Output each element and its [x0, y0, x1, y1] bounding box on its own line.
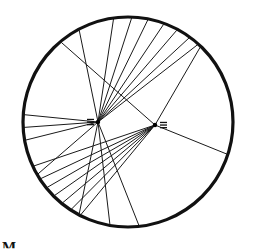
hub-b-spoke-6	[55, 125, 156, 196]
hub-b-spoke-2	[155, 125, 227, 154]
hub-a-spoke-0	[79, 30, 98, 122]
hub-b-point	[153, 123, 157, 127]
hub-b-spoke-4	[41, 125, 155, 179]
hub-b-equiv-mark	[160, 122, 167, 129]
hub-a-spoke-4	[98, 24, 164, 122]
hub-b-spoke-1	[155, 47, 200, 125]
hub-b-spoke-7	[63, 125, 155, 203]
hub-a-point	[96, 120, 100, 124]
spoke-diagram	[0, 0, 255, 252]
hub-a-spoke-10	[24, 115, 98, 122]
hub-a-equiv-mark	[87, 119, 94, 126]
hub-b-spoke-8	[71, 125, 155, 209]
rim-circle	[23, 17, 233, 227]
hub-a-spoke-7	[98, 45, 198, 122]
